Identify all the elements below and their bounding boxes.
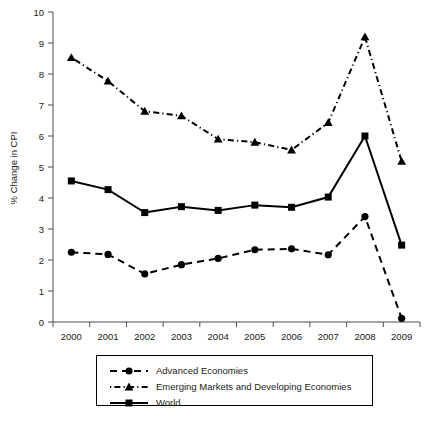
data-point <box>288 204 295 211</box>
data-point <box>324 118 333 126</box>
series-line <box>71 37 401 162</box>
x-axis-ticks <box>53 322 420 327</box>
circle-marker-icon <box>125 367 132 374</box>
data-point <box>361 133 368 140</box>
data-series-layer <box>67 32 406 321</box>
data-point <box>361 32 370 40</box>
x-tick-2001: 2001 <box>97 331 118 342</box>
data-point <box>215 207 222 214</box>
y-tick-0: 0 <box>39 317 44 328</box>
x-tick-2004: 2004 <box>208 331 229 342</box>
y-tick-4: 4 <box>39 193 44 204</box>
data-point <box>177 111 186 119</box>
legend-item-label: Advanced Economies <box>156 365 248 376</box>
data-point <box>214 135 223 143</box>
series-emerging-markets-and-developing-economies <box>67 32 406 164</box>
y-tick-10: 10 <box>33 7 44 18</box>
chart-canvas: % Change in CPI 10 9 8 7 6 5 4 3 2 1 0 <box>0 0 432 425</box>
y-tick-7: 7 <box>39 100 44 111</box>
data-point <box>288 245 295 252</box>
y-tick-5: 5 <box>39 162 44 173</box>
cpi-line-chart: % Change in CPI 10 9 8 7 6 5 4 3 2 1 0 <box>0 0 432 425</box>
y-axis-tick-labels: 10 9 8 7 6 5 4 3 2 1 0 <box>33 7 44 328</box>
y-tick-9: 9 <box>39 38 44 49</box>
data-point <box>68 177 75 184</box>
data-point <box>68 249 75 256</box>
x-tick-2000: 2000 <box>61 331 82 342</box>
x-tick-2009: 2009 <box>391 331 412 342</box>
data-point <box>361 213 368 220</box>
x-tick-2005: 2005 <box>244 331 265 342</box>
legend-item-label: World <box>156 397 181 408</box>
x-tick-2006: 2006 <box>281 331 302 342</box>
y-tick-8: 8 <box>39 69 44 80</box>
y-axis-ticks <box>48 12 53 322</box>
data-point <box>397 157 406 165</box>
square-marker-icon <box>126 400 133 407</box>
x-tick-2007: 2007 <box>318 331 339 342</box>
data-point <box>325 194 332 201</box>
data-point <box>178 261 185 268</box>
x-axis-tick-labels: 2000200120022003200420052006200720082009 <box>61 331 412 342</box>
data-point <box>141 209 148 216</box>
y-tick-1: 1 <box>39 286 44 297</box>
x-tick-2003: 2003 <box>171 331 192 342</box>
data-point <box>325 251 332 258</box>
legend-item-label: Emerging Markets and Developing Economie… <box>156 381 352 392</box>
data-point <box>250 138 259 146</box>
data-point <box>398 315 405 322</box>
data-point <box>105 186 112 193</box>
y-tick-6: 6 <box>39 131 44 142</box>
y-tick-2: 2 <box>39 255 44 266</box>
data-point <box>67 53 76 61</box>
x-tick-2008: 2008 <box>354 331 375 342</box>
data-point <box>104 251 111 258</box>
series-line <box>71 217 401 319</box>
series-world <box>68 133 405 249</box>
data-point <box>251 202 258 209</box>
data-point <box>178 203 185 210</box>
data-point <box>104 77 113 85</box>
y-tick-3: 3 <box>39 224 44 235</box>
x-tick-2002: 2002 <box>134 331 155 342</box>
data-point <box>251 246 258 253</box>
y-axis-title: % Change in CPI <box>8 132 19 205</box>
data-point <box>215 255 222 262</box>
data-point <box>398 242 405 249</box>
data-point <box>141 270 148 277</box>
series-advanced-economies <box>68 213 406 322</box>
